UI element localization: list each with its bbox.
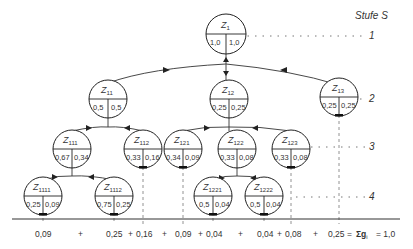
node-value-left: 1,0 — [210, 38, 220, 47]
node-Z112: Z112 0,33 0,16 — [124, 130, 162, 169]
svg-text:0,75: 0,75 — [97, 200, 112, 209]
svg-text:+: + — [277, 229, 282, 239]
svg-text:0,09: 0,09 — [45, 200, 60, 209]
node-Z1: Z1 1,0 1,0 — [206, 14, 246, 54]
svg-text:0,5: 0,5 — [199, 200, 209, 209]
svg-text:0,08: 0,08 — [285, 229, 302, 239]
node-value-right: 1,0 — [229, 38, 239, 47]
svg-text:=: = — [347, 229, 352, 239]
svg-text:+: + — [78, 229, 83, 239]
node-Z122: Z122 0,33 0,08 — [218, 130, 256, 168]
node-Z123: Z123 0,33 0,08 — [272, 130, 310, 169]
svg-text:0,25: 0,25 — [341, 101, 356, 110]
stage-3-label: 3 — [369, 141, 375, 152]
svg-text:+: + — [313, 229, 318, 239]
stage-2-label: 2 — [368, 93, 375, 104]
svg-text:0,33: 0,33 — [126, 153, 141, 162]
node-Z1222: Z1222 0,5 0,04 — [245, 177, 283, 216]
stage-guides — [240, 36, 365, 197]
svg-text:0,25: 0,25 — [322, 101, 337, 110]
svg-text:0,5: 0,5 — [111, 103, 121, 112]
svg-text:0,34: 0,34 — [166, 153, 181, 162]
node-Z111: Z111 0,67 0,34 — [53, 130, 91, 168]
svg-text:+: + — [128, 229, 133, 239]
stage-axis-label: Stufe S — [355, 10, 388, 21]
svg-text:Σgi: Σgi — [356, 229, 368, 240]
node-Z1221: Z1221 0,5 0,04 — [194, 177, 232, 216]
node-Z11: Z11 0,5 0,5 — [89, 80, 127, 118]
svg-text:0,09: 0,09 — [185, 153, 200, 162]
svg-text:0,25: 0,25 — [328, 229, 345, 239]
node-Z1111: Z1111 0,25 0,09 — [24, 177, 62, 216]
node-Z121: Z121 0,34 0,09 — [164, 130, 202, 169]
svg-text:0,25: 0,25 — [212, 103, 227, 112]
decision-tree-diagram: Stufe S 1 2 3 4 — [0, 0, 413, 249]
node-Z12: Z12 0,25 0,25 — [210, 80, 248, 118]
svg-text:0,25: 0,25 — [231, 103, 246, 112]
node-Z1112: Z1112 0,75 0,25 — [95, 177, 133, 216]
svg-text:0,5: 0,5 — [93, 103, 103, 112]
svg-text:0,33: 0,33 — [274, 153, 289, 162]
svg-text:+: + — [198, 229, 203, 239]
svg-text:0,67: 0,67 — [55, 153, 70, 162]
svg-text:0,04: 0,04 — [266, 200, 281, 209]
svg-text:0,08: 0,08 — [239, 153, 254, 162]
svg-text:0,04: 0,04 — [206, 229, 223, 239]
svg-text:0,04: 0,04 — [215, 200, 230, 209]
svg-text:= 1,0: = 1,0 — [376, 229, 395, 239]
svg-text:0,33: 0,33 — [220, 153, 235, 162]
svg-text:0,34: 0,34 — [74, 153, 89, 162]
svg-text:0,09: 0,09 — [35, 229, 52, 239]
svg-text:0,16: 0,16 — [145, 153, 160, 162]
svg-text:0,04: 0,04 — [257, 229, 274, 239]
stage-1-label: 1 — [369, 30, 375, 41]
svg-text:0,25: 0,25 — [106, 229, 123, 239]
probability-sum-row: 0,09 + 0,25 + 0,16 + 0,09 + 0,04 + 0,04 … — [35, 229, 395, 240]
svg-text:0,5: 0,5 — [250, 200, 260, 209]
svg-text:0,16: 0,16 — [136, 229, 153, 239]
node-Z13: Z13 0,25 0,25 — [320, 78, 358, 117]
svg-text:0,08: 0,08 — [293, 153, 308, 162]
svg-text:0,25: 0,25 — [26, 200, 41, 209]
svg-text:+: + — [238, 229, 243, 239]
svg-text:0,25: 0,25 — [116, 200, 131, 209]
stage-4-label: 4 — [369, 191, 375, 202]
svg-text:0,09: 0,09 — [175, 229, 192, 239]
svg-text:+: + — [162, 229, 167, 239]
